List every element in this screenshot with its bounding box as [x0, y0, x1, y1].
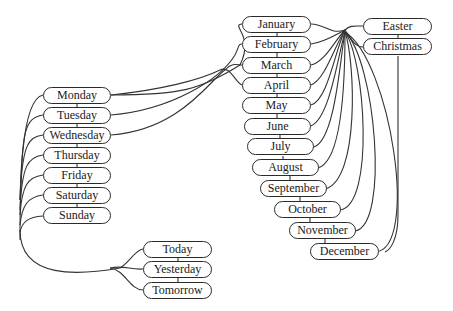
node-friday: Friday: [43, 167, 111, 184]
node-october: October: [274, 201, 341, 218]
node-saturday: Saturday: [43, 187, 111, 204]
node-june: June: [244, 118, 311, 135]
node-may: May: [242, 97, 311, 114]
node-christmas: Christmas: [363, 38, 432, 55]
node-tuesday: Tuesday: [43, 107, 111, 124]
node-september: September: [260, 180, 327, 197]
node-december: December: [310, 243, 379, 260]
node-august: August: [252, 159, 319, 176]
node-yesterday: Yesterday: [143, 261, 212, 278]
node-monday: Monday: [43, 87, 111, 104]
node-tomorrow: Tomorrow: [143, 282, 212, 299]
node-easter: Easter: [363, 18, 432, 35]
node-today: Today: [143, 241, 212, 258]
node-january: January: [242, 16, 311, 33]
node-march: March: [242, 57, 311, 74]
node-sunday: Sunday: [43, 207, 111, 224]
node-july: July: [247, 138, 314, 155]
node-april: April: [242, 77, 311, 94]
node-november: November: [289, 222, 356, 239]
node-wednesday: Wednesday: [43, 127, 111, 144]
node-thursday: Thursday: [43, 147, 111, 164]
node-february: February: [242, 36, 311, 53]
